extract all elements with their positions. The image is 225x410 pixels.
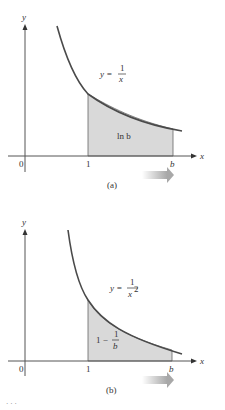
figure-caption-partial: · · · (0, 400, 225, 410)
right-arrow-icon-a (142, 171, 167, 179)
x-axis-label-b: x (199, 356, 204, 366)
y-axis-arrow-icon (23, 24, 28, 30)
function-label-a-num: 1 (120, 63, 125, 73)
figure-canvas: y x 0 1 b y = 1 x ln b (a) y x 0 1 b y =… (0, 0, 225, 410)
panel-a (8, 24, 197, 172)
tick-b-label-a: b (170, 159, 175, 169)
function-label-a-den: x (118, 74, 123, 84)
tick-1-label-a: 1 (86, 159, 91, 169)
origin-label-a: 0 (19, 159, 24, 169)
function-label-b-lhs: y = (109, 283, 122, 293)
x-axis-arrow-icon (191, 359, 197, 364)
tick-b-label-b: b (169, 364, 174, 374)
origin-label-b: 0 (19, 364, 24, 374)
function-label-b-exp: 2 (134, 284, 139, 294)
shaded-area-1-minus-1-over-b (88, 300, 172, 361)
y-axis-label-b: y (21, 217, 26, 227)
tick-1-label-b: 1 (86, 364, 91, 374)
area-label-a: ln b (117, 131, 131, 141)
x-axis-arrow-icon (191, 154, 197, 159)
right-arrow-head-b (167, 372, 174, 388)
area-label-b-den: b (113, 341, 118, 351)
panel-b (8, 229, 197, 376)
y-axis-label-a: y (21, 12, 26, 22)
function-label-a-lhs: y = (99, 69, 112, 79)
right-arrow-icon-b (142, 376, 167, 384)
panel-label-a: (a) (107, 180, 117, 190)
area-label-b-num: 1 (114, 329, 119, 339)
panel-label-b: (b) (106, 385, 117, 395)
area-label-b-prefix: 1 − (96, 335, 108, 345)
x-axis-label-a: x (199, 151, 204, 161)
y-axis-arrow-icon (23, 229, 28, 235)
right-arrow-head-a (167, 167, 174, 183)
function-label-b-den: x (127, 289, 132, 299)
